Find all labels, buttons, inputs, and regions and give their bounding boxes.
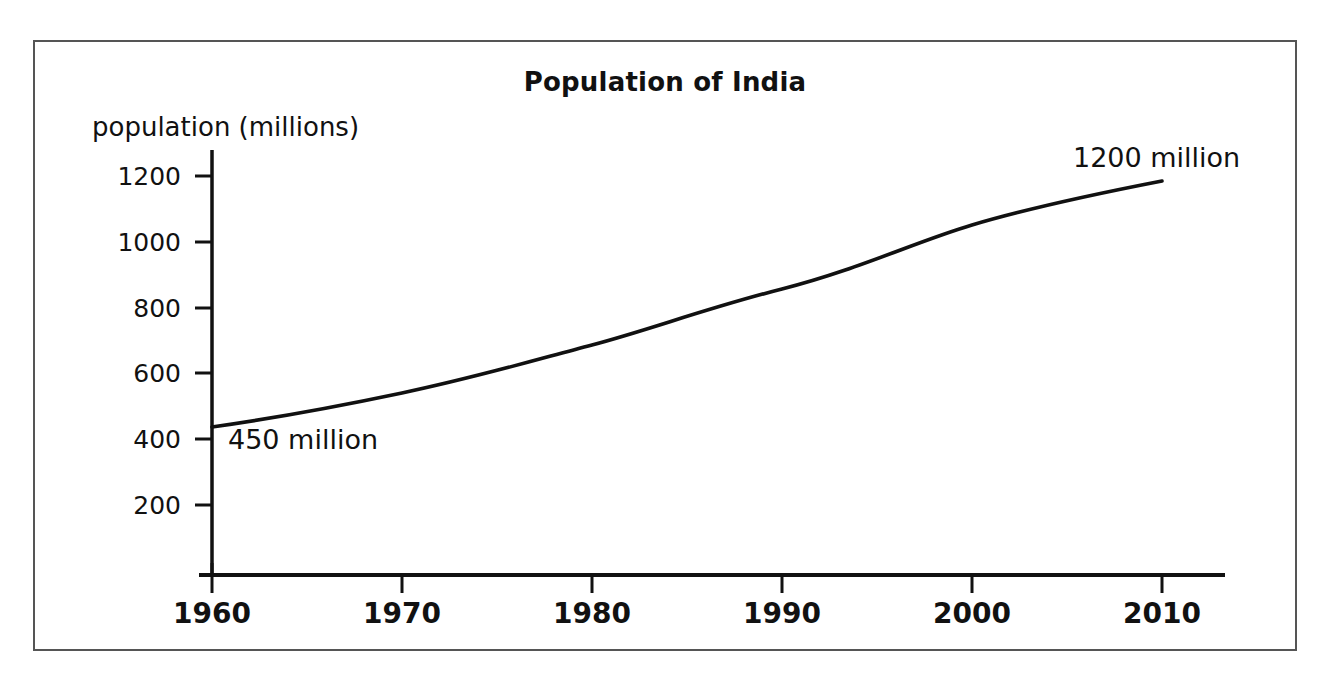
annotation-start-value: 450 million — [228, 424, 378, 455]
population-line-series — [212, 181, 1162, 427]
x-tick-label-2010: 2010 — [1102, 597, 1222, 630]
y-tick-label-400: 400 — [95, 425, 181, 454]
chart-title: Population of India — [35, 67, 1295, 97]
y-tick-label-1200: 1200 — [95, 162, 181, 191]
y-tick-label-1000: 1000 — [95, 228, 181, 257]
y-axis-ticks — [195, 176, 212, 505]
y-tick-label-600: 600 — [95, 359, 181, 388]
y-tick-label-800: 800 — [95, 294, 181, 323]
x-tick-label-1980: 1980 — [532, 597, 652, 630]
chart-figure-frame: Population of India population (millions… — [33, 40, 1297, 651]
x-axis-ticks — [212, 563, 1162, 593]
annotation-end-value: 1200 million — [1073, 142, 1240, 173]
x-tick-label-1970: 1970 — [342, 597, 462, 630]
x-tick-label-1990: 1990 — [722, 597, 842, 630]
y-tick-label-200: 200 — [95, 491, 181, 520]
y-axis-title: population (millions) — [92, 112, 359, 142]
chart-plot-area: Population of India population (millions… — [35, 42, 1295, 649]
x-tick-label-2000: 2000 — [912, 597, 1032, 630]
x-tick-label-1960: 1960 — [152, 597, 272, 630]
